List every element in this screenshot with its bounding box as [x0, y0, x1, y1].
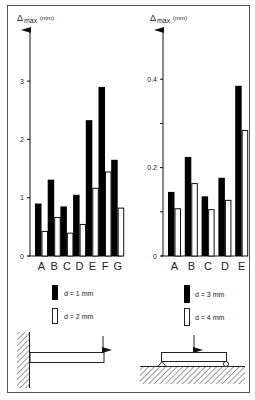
x-category-label: B	[51, 260, 58, 272]
left-bars	[35, 87, 124, 256]
left-y-ticks: 0123	[20, 78, 30, 260]
ground-hatch	[140, 367, 245, 384]
fixed-wall-hatch	[17, 332, 29, 388]
left-legend: d = 1 mm d = 2 mm	[52, 285, 94, 324]
legend-label: d = 1 mm	[64, 290, 94, 297]
cantilever-diagram	[17, 332, 104, 388]
y-tick-label: 2	[20, 136, 24, 143]
bar-E-series-0	[235, 86, 242, 256]
left-x-labels: ABCDEFG	[38, 260, 122, 272]
x-category-label: A	[171, 260, 179, 272]
bar-B-series-0	[48, 180, 55, 256]
x-category-label: E	[89, 260, 96, 272]
bar-D-series-0	[73, 195, 80, 256]
legend-swatch-black	[52, 285, 58, 300]
x-category-label: C	[204, 260, 212, 272]
bar-A-series-0	[168, 192, 175, 256]
bar-C-series-1	[209, 210, 215, 256]
y-tick-label: 3	[20, 78, 24, 85]
y-tick-label: 0	[20, 253, 24, 260]
right-y-axis-label: Δ max (mm)	[150, 13, 187, 24]
delta-symbol: Δ	[150, 13, 156, 23]
bar-C-series-1	[67, 233, 73, 256]
x-category-label: G	[113, 260, 122, 272]
bar-A-series-1	[175, 209, 181, 256]
x-category-label: B	[188, 260, 195, 272]
bar-E-series-1	[242, 131, 248, 256]
pin-support-icon	[158, 362, 166, 367]
bar-D-series-0	[218, 178, 225, 256]
x-category-label: F	[102, 260, 109, 272]
bar-B-series-1	[192, 184, 198, 256]
unit-label: (mm)	[40, 15, 54, 21]
legend-swatch-white	[53, 309, 58, 324]
figure: Δ max (mm) 0123 ABCDEFG Δ max (mm) 00.20…	[0, 0, 255, 400]
bar-C-series-0	[60, 206, 67, 256]
bar-G-series-0	[111, 160, 118, 256]
bar-A-series-0	[35, 204, 42, 256]
bar-B-series-1	[55, 217, 61, 256]
left-y-axis-label: Δ max (mm)	[17, 13, 54, 24]
bar-G-series-1	[118, 208, 124, 256]
right-x-labels: ABCDE	[171, 260, 246, 272]
y-tick-label: 0.2	[147, 164, 157, 171]
simply-supported-diagram	[140, 335, 245, 384]
unit-label: (mm)	[173, 15, 187, 21]
right-y-ticks: 00.20.4	[147, 76, 163, 260]
cantilever-beam	[30, 353, 104, 363]
bar-F-series-0	[99, 87, 106, 256]
right-legend: d = 3 mm d = 4 mm	[184, 285, 225, 326]
bar-D-series-1	[80, 224, 86, 256]
bar-D-series-1	[225, 200, 231, 256]
max-subscript: max	[24, 17, 38, 24]
x-category-label: E	[238, 260, 245, 272]
legend-swatch-white	[185, 309, 190, 326]
x-category-label: A	[38, 260, 46, 272]
x-category-label: C	[63, 260, 71, 272]
bar-B-series-0	[185, 157, 192, 256]
bar-C-series-0	[202, 196, 209, 256]
x-category-label: D	[221, 260, 229, 272]
y-tick-label: 0	[153, 253, 157, 260]
bar-A-series-1	[42, 231, 48, 256]
legend-label: d = 4 mm	[195, 314, 225, 321]
y-tick-label: 0.4	[147, 76, 157, 83]
legend-label: d = 2 mm	[64, 313, 94, 320]
simple-beam	[162, 353, 227, 362]
bar-E-series-0	[86, 120, 93, 256]
x-category-label: D	[76, 260, 84, 272]
y-tick-label: 1	[20, 194, 24, 201]
delta-symbol: Δ	[17, 13, 23, 23]
max-subscript: max	[157, 17, 171, 24]
bar-F-series-1	[106, 172, 112, 256]
left-chart: Δ max (mm) 0123 ABCDEFG	[17, 13, 124, 272]
roller-support-icon	[224, 362, 229, 367]
legend-swatch-black	[184, 285, 190, 303]
right-bars	[168, 86, 248, 256]
right-chart: Δ max (mm) 00.20.4 ABCDE	[147, 13, 247, 272]
bar-E-series-1	[93, 188, 99, 256]
legend-label: d = 3 mm	[195, 291, 225, 298]
